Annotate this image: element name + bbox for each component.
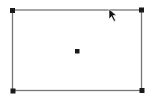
arrow-pointer-icon [109,9,117,22]
resize-handle-bottom-right[interactable] [140,88,145,93]
drawing-canvas[interactable] [0,0,150,99]
resize-handle-top-left[interactable] [10,8,15,13]
resize-handle-top-right[interactable] [139,8,144,13]
move-handle-center[interactable] [75,49,80,54]
resize-handle-bottom-left[interactable] [11,89,16,94]
